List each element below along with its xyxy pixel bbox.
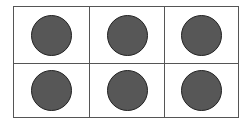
grid-cell — [14, 64, 90, 117]
grid-frame — [13, 6, 239, 118]
counter-circle — [31, 15, 72, 56]
grid-cell — [90, 64, 165, 117]
counter-circle — [181, 15, 222, 56]
grid-cell — [90, 7, 165, 64]
counter-circle — [31, 70, 72, 111]
counter-circle — [107, 70, 148, 111]
counter-circle — [107, 15, 148, 56]
counter-circle — [181, 70, 222, 111]
grid-cell — [14, 7, 90, 64]
grid-cell — [165, 7, 238, 64]
grid-cell — [165, 64, 238, 117]
